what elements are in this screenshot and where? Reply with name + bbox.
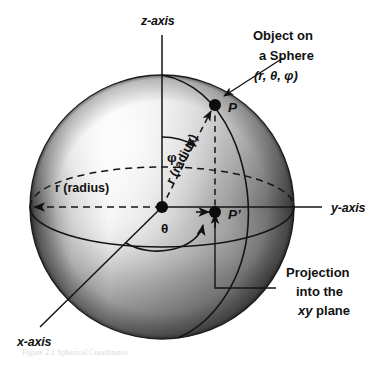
point-p-marker bbox=[209, 99, 221, 111]
projection-callout-plane-italic: xy bbox=[297, 303, 313, 318]
y-axis-label: y-axis bbox=[330, 201, 365, 215]
object-callout-line3: (r, θ, φ) bbox=[254, 68, 298, 83]
spherical-coordinates-diagram: P P’ z-axis y-axis x-axis φ θ r (radius)… bbox=[0, 0, 388, 365]
point-p-prime-marker bbox=[209, 206, 221, 218]
figure-canvas: P P’ z-axis y-axis x-axis φ θ r (radius)… bbox=[0, 0, 388, 365]
object-callout: Object on a Sphere (r, θ, φ) bbox=[224, 28, 314, 96]
object-callout-line2: a Sphere bbox=[259, 48, 314, 63]
x-axis-label: x-axis bbox=[16, 335, 51, 349]
svg-text:xy plane: xy plane bbox=[297, 303, 350, 318]
projection-callout-line2: into the bbox=[296, 284, 343, 299]
point-p-prime-label: P’ bbox=[228, 207, 241, 222]
equator-radius-label: r (radius) bbox=[55, 181, 109, 195]
point-p-label: P bbox=[228, 100, 238, 115]
z-axis-label: z-axis bbox=[140, 14, 175, 28]
projection-callout-plane-rest: plane bbox=[312, 303, 350, 318]
theta-angle-label: θ bbox=[161, 221, 168, 236]
origin-marker bbox=[156, 201, 168, 213]
figure-caption-ghost: Figure 2.1 Spherical Coordinates bbox=[22, 348, 128, 357]
object-callout-line1: Object on bbox=[253, 28, 313, 43]
projection-callout-line1: Projection bbox=[286, 265, 350, 280]
